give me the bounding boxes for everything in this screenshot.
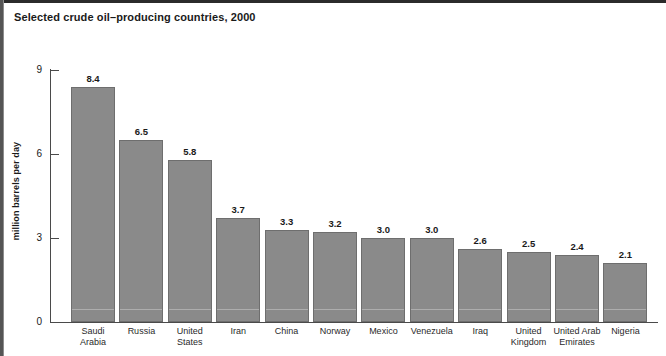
bar-value-label: 5.8	[158, 146, 222, 157]
bar-rect[interactable]	[507, 252, 551, 322]
bar-item[interactable]: 6.5	[119, 140, 163, 322]
x-tick-label-line: Arabia	[57, 337, 129, 348]
bar-series: 8.46.55.83.73.33.23.03.02.62.52.42.1	[0, 0, 666, 356]
bar-item[interactable]: 3.0	[361, 238, 405, 322]
bar-value-label: 3.7	[206, 204, 270, 215]
bar-item[interactable]: 8.4	[71, 87, 115, 322]
x-tick-label: Nigeria	[589, 326, 661, 337]
bar-rect[interactable]	[361, 238, 405, 322]
bar-rect[interactable]	[216, 218, 260, 322]
bar-rect[interactable]	[603, 263, 647, 322]
bar-item[interactable]: 2.4	[555, 255, 599, 322]
bar-rect[interactable]	[265, 230, 309, 322]
x-tick-label-line: States	[154, 337, 226, 348]
bar-rect[interactable]	[410, 238, 454, 322]
bar-item[interactable]: 5.8	[168, 160, 212, 322]
bar-value-label: 8.4	[61, 73, 125, 84]
bar-item[interactable]: 2.1	[603, 263, 647, 322]
bar-item[interactable]: 3.2	[313, 232, 357, 322]
x-tick-label-line: Emirates	[541, 337, 613, 348]
bar-rect[interactable]	[168, 160, 212, 322]
bar-rect[interactable]	[119, 140, 163, 322]
bar-rect[interactable]	[458, 249, 502, 322]
bar-value-label: 6.5	[109, 126, 173, 137]
bar-value-label: 2.1	[593, 249, 657, 260]
bar-item[interactable]: 2.5	[507, 252, 551, 322]
bar-item[interactable]: 3.3	[265, 230, 309, 322]
bar-item[interactable]: 2.6	[458, 249, 502, 322]
bar-item[interactable]: 3.7	[216, 218, 260, 322]
bar-rect[interactable]	[313, 232, 357, 322]
bar-value-label: 3.0	[400, 224, 464, 235]
x-tick-label-line: Nigeria	[589, 326, 661, 337]
figure-chart-panel: Selected crude oil–producing countries, …	[0, 0, 666, 356]
bar-rect[interactable]	[555, 255, 599, 322]
x-axis-tick-labels: SaudiArabiaRussiaUnitedStatesIranChinaNo…	[0, 322, 666, 356]
bar-rect[interactable]	[71, 87, 115, 322]
bar-item[interactable]: 3.0	[410, 238, 454, 322]
